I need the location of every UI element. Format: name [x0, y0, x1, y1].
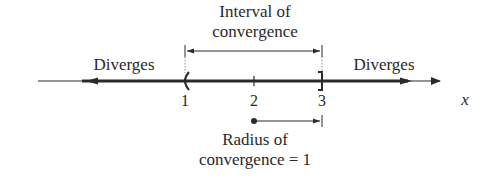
divergence-right-arrow: [322, 78, 412, 85]
interval-title-line2: convergence: [193, 22, 317, 42]
interval-title-line1: Interval of: [193, 2, 317, 22]
radius-label-line1: Radius of: [200, 130, 310, 150]
tick-label-3: 3: [315, 91, 329, 111]
diverges-left-label: Diverges: [84, 55, 164, 75]
number-line-diagram: Interval of convergence Diverges Diverge…: [0, 0, 499, 184]
axis-variable-label: x: [458, 90, 472, 110]
interval-bracket: [185, 45, 322, 73]
tick-label-1: 1: [178, 91, 192, 111]
radius-label-line2: convergence = 1: [180, 150, 330, 170]
radius-indicator: [251, 115, 322, 127]
diverges-right-label: Diverges: [344, 55, 424, 75]
tick-label-2: 2: [247, 91, 261, 111]
divergence-left-arrow: [82, 77, 185, 85]
